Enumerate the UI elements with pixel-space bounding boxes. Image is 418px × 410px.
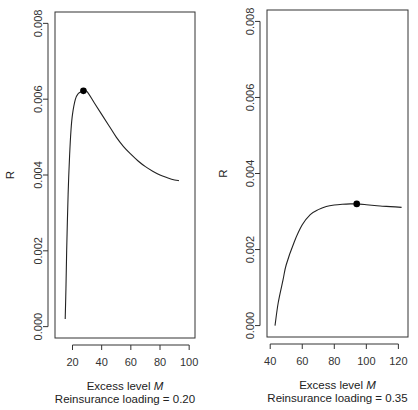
x-tick-label: 60 bbox=[296, 355, 308, 367]
y-tick-label: 0.004 bbox=[244, 160, 256, 188]
r-curve bbox=[65, 90, 179, 319]
y-tick-label: 0.006 bbox=[244, 84, 256, 112]
x-tick-label: 100 bbox=[180, 356, 198, 368]
y-axis-title: R bbox=[4, 171, 16, 179]
y-axis: 0.0000.0020.0040.0060.008 bbox=[244, 8, 260, 340]
r-curve bbox=[275, 204, 402, 326]
chart-canvas: 204060801000.0000.0020.0040.0060.008RExc… bbox=[0, 0, 418, 410]
x-axis-title: Excess level M bbox=[87, 380, 164, 392]
y-tick-label: 0.000 bbox=[32, 313, 44, 341]
x-tick-label: 40 bbox=[96, 356, 108, 368]
x-axis: 20406080100 bbox=[66, 345, 198, 368]
plot-frame bbox=[55, 12, 195, 338]
optimum-point bbox=[353, 201, 360, 208]
y-tick-label: 0.002 bbox=[32, 237, 44, 265]
x-axis-subtitle: Reinsurance loading = 0.20 bbox=[55, 393, 195, 405]
y-tick-label: 0.008 bbox=[244, 8, 256, 36]
x-tick-label: 120 bbox=[389, 355, 407, 367]
y-tick-label: 0.006 bbox=[32, 85, 44, 113]
x-tick-label: 20 bbox=[66, 356, 78, 368]
y-tick-label: 0.002 bbox=[244, 236, 256, 264]
y-tick-label: 0.004 bbox=[32, 161, 44, 189]
optimum-point bbox=[80, 88, 87, 95]
y-tick-label: 0.000 bbox=[244, 312, 256, 340]
panel-left: 204060801000.0000.0020.0040.0060.008RExc… bbox=[4, 10, 198, 405]
x-tick-label: 80 bbox=[328, 355, 340, 367]
x-tick-label: 100 bbox=[357, 355, 375, 367]
y-tick-label: 0.008 bbox=[32, 10, 44, 38]
y-axis-title: R bbox=[217, 169, 229, 177]
panel-right: 4060801001200.0000.0020.0040.0060.008REx… bbox=[217, 8, 408, 404]
x-tick-label: 60 bbox=[125, 356, 137, 368]
plot-frame bbox=[267, 10, 408, 337]
x-axis: 406080100120 bbox=[264, 344, 407, 367]
y-axis: 0.0000.0020.0040.0060.008 bbox=[32, 10, 48, 341]
x-axis-title: Excess level M bbox=[299, 379, 376, 391]
x-axis-subtitle: Reinsurance loading = 0.35 bbox=[267, 392, 407, 404]
x-tick-label: 80 bbox=[154, 356, 166, 368]
figure: 204060801000.0000.0020.0040.0060.008RExc… bbox=[0, 0, 418, 410]
x-tick-label: 40 bbox=[264, 355, 276, 367]
